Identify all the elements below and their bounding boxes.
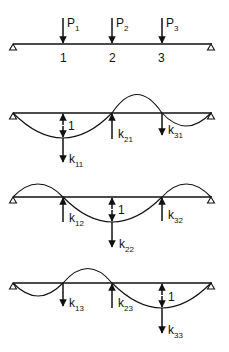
load-label-p2: P2 <box>116 16 129 33</box>
right-pin-support-icon <box>208 44 215 50</box>
coefficient-label-k13: k13 <box>69 296 84 313</box>
load-label-p1: P1 <box>67 16 80 33</box>
node-label-3: 3 <box>158 51 165 65</box>
coefficient-label-k22: k22 <box>119 237 134 254</box>
unit-displacement-label: 1 <box>118 203 125 217</box>
left-pin-support-icon <box>10 44 17 50</box>
deflection-case-3-panel: k13 k23 1 k33 <box>10 269 215 341</box>
deflection-case-2-panel: k12 1 k22 k32 <box>10 184 215 254</box>
beam-stiffness-diagram: P1 P2 P3 1 2 3 1 k11 k21 k31 k12 1 k22 <box>0 0 229 352</box>
coefficient-label-k32: k32 <box>168 208 183 225</box>
node-label-1: 1 <box>60 51 67 65</box>
unit-displacement-label: 1 <box>68 119 75 133</box>
right-pin-support-icon <box>208 197 215 203</box>
unit-displacement-label: 1 <box>168 290 175 304</box>
coefficient-label-k33: k33 <box>168 323 183 340</box>
coefficient-label-k11: k11 <box>69 152 84 169</box>
coefficient-label-k21: k21 <box>118 127 133 144</box>
node-label-2: 2 <box>109 51 116 65</box>
deflection-case-1-panel: 1 k11 k21 k31 <box>10 95 215 170</box>
loaded-beam-panel: P1 P2 P3 1 2 3 <box>10 16 215 65</box>
left-pin-support-icon <box>10 197 17 203</box>
coefficient-label-k12: k12 <box>69 211 84 228</box>
load-label-p3: P3 <box>166 16 179 33</box>
